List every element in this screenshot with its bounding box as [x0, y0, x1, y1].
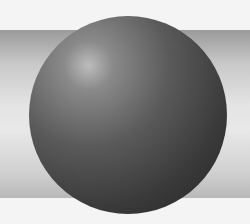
sphere	[29, 16, 227, 214]
